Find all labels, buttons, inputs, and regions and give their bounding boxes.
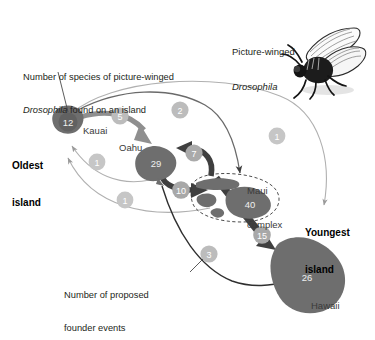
svg-text:3: 3 <box>206 250 211 260</box>
founder-legend-line2: founder events <box>64 323 149 334</box>
founder-legend-line1: Number of proposed <box>64 290 149 301</box>
youngest-island-line2: island <box>305 264 350 276</box>
founder-badge-3: 3 <box>200 245 217 262</box>
founder-badge-1-oahu-kauai: 1 <box>89 154 106 171</box>
island-shape-kahoolawe <box>211 208 225 217</box>
figure-canvas: 12 29 40 26 5 2 7 10 15 3 <box>0 0 375 340</box>
founder-badge-1-maui-kauai: 1 <box>117 192 134 209</box>
subject-label-line2: Drosophila <box>232 81 295 93</box>
subject-label: Picture-winged Drosophila <box>232 22 295 117</box>
svg-text:10: 10 <box>176 186 186 196</box>
founder-badge-1-kauai-hawaii: 1 <box>269 128 286 145</box>
svg-text:2: 2 <box>177 106 182 116</box>
island-label-hawaii: Hawaii <box>311 300 340 311</box>
island-shape-molokai <box>196 178 239 190</box>
species-count-oahu: 29 <box>151 158 162 169</box>
maui-label-line2: complex <box>247 219 282 230</box>
island-label-maui-complex: Maui complex <box>247 163 282 253</box>
founder-badge-2: 2 <box>171 101 188 118</box>
species-legend-line2: Drosophila found on an island <box>23 105 174 116</box>
species-legend-line1: Number of species of picture-winged <box>23 72 174 83</box>
youngest-island-label: Youngest island <box>305 203 350 301</box>
founder-badge-7: 7 <box>185 144 202 161</box>
species-legend-genus: Drosophila <box>23 105 67 115</box>
island-label-oahu: Oahu <box>119 142 142 153</box>
island-shape-lanai <box>197 194 217 208</box>
subject-label-line1: Picture-winged <box>232 46 295 58</box>
founder-legend-caption: Number of proposed founder events <box>64 268 149 340</box>
island-label-kauai: Kauai <box>83 125 107 136</box>
oldest-island-label: Oldest island <box>12 136 43 234</box>
svg-text:1: 1 <box>122 196 127 206</box>
oldest-island-line2: island <box>12 197 43 209</box>
species-legend-rest: found on an island <box>67 105 146 115</box>
oldest-island-line1: Oldest <box>12 160 43 172</box>
svg-text:1: 1 <box>274 132 279 142</box>
maui-label-line1: Maui <box>247 185 282 196</box>
youngest-island-line1: Youngest <box>305 227 350 239</box>
svg-text:1: 1 <box>94 158 99 168</box>
svg-text:7: 7 <box>191 149 196 159</box>
founder-badge-10: 10 <box>172 181 190 199</box>
leader-line-founder-legend <box>190 259 203 272</box>
